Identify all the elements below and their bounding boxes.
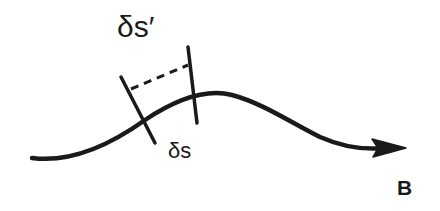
diagram-svg <box>0 0 440 211</box>
label-ds: δs <box>168 140 191 162</box>
dashed-link-line <box>131 65 188 89</box>
field-line-curve <box>32 93 385 159</box>
segment-right-line <box>188 47 197 123</box>
label-ds-prime: δs′ <box>117 12 154 42</box>
label-field-b: B <box>397 177 412 198</box>
arrowhead-icon <box>372 139 406 157</box>
diagram-canvas: δs′ δs B <box>0 0 440 211</box>
